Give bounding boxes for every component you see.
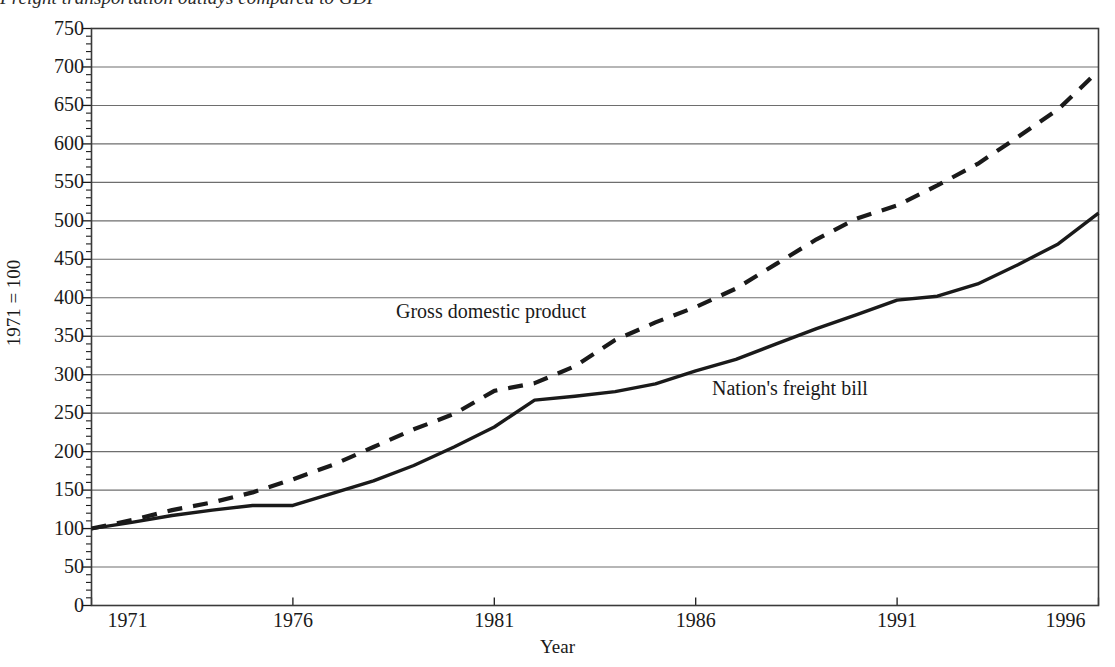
x-axis-tick-label: 1981 xyxy=(449,609,539,631)
x-axis-tick-label: 1976 xyxy=(248,609,338,631)
x-axis-tick-label: 1971 xyxy=(83,609,173,631)
series-label-gross-domestic-product: Gross domestic product xyxy=(396,300,586,322)
x-axis-tick-label: 1996 xyxy=(1021,609,1111,631)
x-axis-tick-label: 1991 xyxy=(852,609,942,631)
chart-figure: Freight transportation outlays compared … xyxy=(0,0,1115,667)
x-axis-tick-labels: 197119761981198619911996 xyxy=(0,0,1115,667)
series-label-nations-freight-bill: Nation's freight bill xyxy=(712,377,868,399)
x-axis-tick-label: 1986 xyxy=(651,609,741,631)
